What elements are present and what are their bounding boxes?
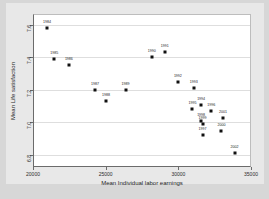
data-point (150, 56, 153, 59)
gridline-y (34, 90, 250, 91)
data-point (53, 57, 56, 60)
point-label: 2000 (217, 124, 225, 128)
point-label: 1988 (102, 95, 110, 99)
data-point (192, 87, 195, 90)
point-label: 1994 (197, 98, 205, 102)
x-axis-title: Mean Individual labor earnings (33, 180, 251, 186)
y-axis-ticks: 6.87.07.27.47.6 (22, 14, 33, 167)
data-point (176, 80, 179, 83)
data-point (104, 100, 107, 103)
plot-area: 1984198519861987198819891990199119921993… (33, 14, 251, 167)
gridline-y (34, 25, 250, 26)
chart-screenshot: Mean Life satisfaction 6.87.07.27.47.6 1… (0, 0, 269, 199)
point-label: 1997 (199, 129, 207, 133)
point-label: 1995 (188, 103, 196, 107)
y-tick-label: 7.0 (26, 122, 32, 129)
x-tick-label: 25000 (99, 171, 113, 177)
point-label: 1985 (50, 52, 58, 56)
point-label: 1991 (161, 46, 169, 50)
point-label: 1996 (207, 104, 215, 108)
data-point (221, 116, 224, 119)
plot-inner: 1984198519861987198819891990199119921993… (34, 15, 250, 166)
data-point (220, 129, 223, 132)
data-point (163, 51, 166, 54)
point-label: 2002 (231, 147, 239, 151)
y-tick-label: 6.8 (26, 155, 32, 162)
point-label: 2001 (219, 111, 227, 115)
y-tick-label: 7.2 (26, 90, 32, 97)
x-tick-label: 20000 (26, 171, 40, 177)
data-point (201, 123, 204, 126)
data-point (201, 134, 204, 137)
x-tick-mark (178, 167, 179, 170)
point-label: 1986 (65, 59, 73, 63)
x-tick-mark (251, 167, 252, 170)
data-point (210, 110, 213, 113)
data-point (124, 88, 127, 91)
y-axis-title: Mean Life satisfaction (8, 14, 18, 167)
point-label: 1990 (148, 51, 156, 55)
data-point (46, 27, 49, 30)
gridline-y (34, 155, 250, 156)
point-label: 1984 (43, 21, 51, 25)
data-point (200, 103, 203, 106)
x-axis-ticks: 20000250003000035000 (33, 167, 251, 179)
x-tick-label: 35000 (244, 171, 258, 177)
y-axis-title-text: Mean Life satisfaction (10, 61, 16, 119)
point-label: 1999 (199, 117, 207, 121)
point-label: 1989 (122, 83, 130, 87)
x-tick-mark (33, 167, 34, 170)
data-point (191, 108, 194, 111)
data-point (233, 152, 236, 155)
point-label: 1992 (174, 75, 182, 79)
x-tick-label: 30000 (171, 171, 185, 177)
data-point (67, 64, 70, 67)
y-tick-label: 7.4 (26, 57, 32, 64)
x-tick-mark (106, 167, 107, 170)
point-label: 1993 (190, 82, 198, 86)
data-point (94, 88, 97, 91)
y-tick-label: 7.6 (26, 25, 32, 32)
point-label: 1987 (91, 83, 99, 87)
